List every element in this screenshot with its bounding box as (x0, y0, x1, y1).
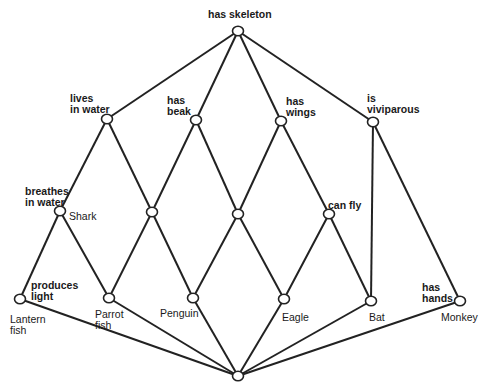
edge-n_mid2-n_eagle (238, 214, 284, 299)
label-lives-in-water: lives in water (70, 93, 110, 115)
edge-n_beak-n_mid2 (196, 120, 238, 214)
label-penguin: Penguin (160, 308, 199, 319)
node-top (233, 26, 244, 36)
edge-n_fly-n_bat (329, 214, 371, 301)
label-is-viviparous: is viviparous (367, 93, 420, 115)
edge-n_water-n_mid1 (107, 119, 152, 212)
label-bat: Bat (369, 312, 385, 323)
edge-n_beak-n_mid1 (152, 120, 196, 212)
edge-n_mid1-n_parrot (109, 212, 152, 298)
edge-n_vivi-n_bat (371, 122, 373, 301)
concept-lattice-diagram (0, 0, 486, 389)
edge-n_mid2-n_penguin (193, 214, 238, 298)
node-n_vivi (368, 117, 379, 127)
label-has-wings: has wings (286, 96, 316, 118)
edge-n_mid1-n_penguin (152, 212, 193, 298)
edge-n_eagle-bottom (238, 299, 284, 376)
node-n_beak (191, 115, 202, 125)
edge-n_wings-n_mid2 (238, 121, 281, 214)
lattice-edges (20, 31, 460, 376)
label-can-fly: can fly (328, 200, 361, 211)
lattice-nodes (15, 26, 466, 381)
label-breathes-in-water: breathes in water (25, 186, 69, 208)
edge-n_penguin-bottom (193, 298, 238, 376)
label-has-skeleton: has skeleton (208, 9, 272, 20)
node-n_wings (276, 116, 287, 126)
node-n_parrot (104, 293, 115, 303)
edge-n_monkey-bottom (238, 301, 460, 376)
label-has-hands: has hands (422, 282, 453, 304)
node-n_mid2 (233, 209, 244, 219)
edge-n_vivi-n_monkey (373, 122, 460, 301)
node-n_monkey (455, 296, 466, 306)
label-parrot-fish: Parrot fish (95, 309, 124, 331)
label-shark: Shark (69, 211, 96, 222)
node-n_eagle (279, 294, 290, 304)
node-n_mid1 (147, 207, 158, 217)
node-n_penguin (188, 293, 199, 303)
label-produces-light: produces light (31, 280, 78, 302)
edge-n_fly-n_eagle (284, 214, 329, 299)
label-eagle: Eagle (282, 312, 309, 323)
node-n_lantern (15, 294, 26, 304)
label-lantern-fish: Lantern fish (10, 314, 46, 336)
node-n_water (102, 114, 113, 124)
label-monkey: Monkey (441, 312, 478, 323)
edge-n_wings-n_fly (281, 121, 329, 214)
node-bottom (233, 371, 244, 381)
node-n_bat (366, 296, 377, 306)
label-has-beak: has beak (167, 95, 191, 117)
